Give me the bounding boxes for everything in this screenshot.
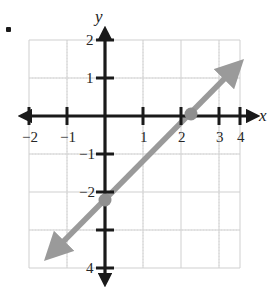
x-tick-label-2: 2: [178, 130, 186, 145]
y-axis-label: y: [95, 8, 103, 25]
y-tick-label-2: 2: [86, 33, 94, 48]
x-tick-label-1: 1: [140, 130, 148, 145]
y-tick-label-1: 1: [86, 71, 94, 86]
x-tick-label--2: −2: [22, 130, 38, 145]
x-axis-label: x: [259, 107, 267, 124]
y-tick-label--2: −2: [79, 185, 95, 200]
graph-figure: −2 −1 1 2 3 4 2 1 −1 −2 4 x y: [0, 0, 277, 296]
x-tick-label-4: 4: [237, 130, 245, 145]
y-tick-label--1: −1: [79, 147, 95, 162]
coordinate-plane: [0, 0, 277, 296]
point-y-intercept: [99, 194, 112, 207]
point-x-intercept: [185, 108, 198, 121]
y-tick-label--4: 4: [86, 261, 94, 276]
x-tick-label-3: 3: [216, 130, 224, 145]
x-tick-label--1: −1: [60, 130, 76, 145]
